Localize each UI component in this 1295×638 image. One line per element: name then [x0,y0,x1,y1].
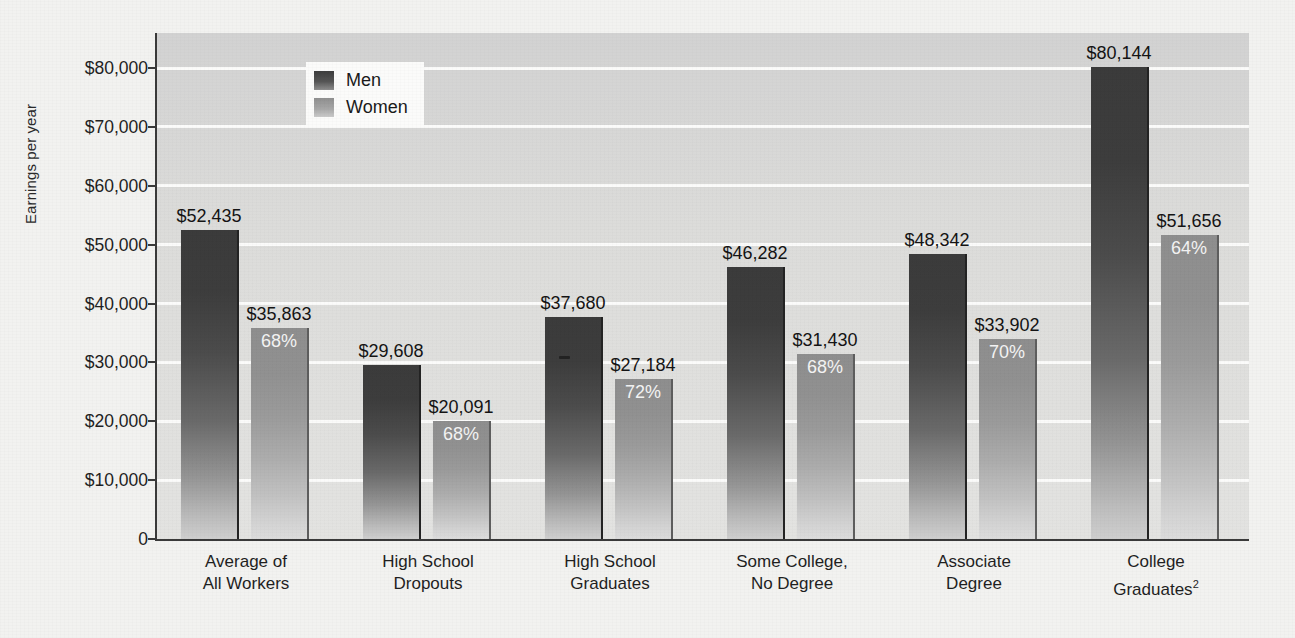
bar-value-label: $33,902 [974,315,1039,336]
bar-value-label: $51,656 [1156,211,1221,232]
legend-item-women: Women [314,94,408,121]
y-axis-tickmark [148,67,157,69]
bar-percent-label: 64% [1171,238,1207,259]
bar-percent-label: 68% [807,357,843,378]
bar-men[interactable]: $80,144 [1091,67,1149,539]
bar-value-label: $35,863 [246,304,311,325]
bar-women[interactable]: $33,90270% [979,339,1037,539]
bar-percent-label: 68% [443,424,479,445]
bar-value-label: $29,608 [358,341,423,362]
bar-value-label: $20,091 [428,397,493,418]
y-axis-tick-label: $10,000 [8,470,148,491]
y-axis-tick-labels: $80,000$70,000$60,000$50,000$40,000$30,0… [0,0,148,638]
y-axis-tickmark [148,185,157,187]
x-axis-label-line2: Graduates2 [1046,573,1266,601]
y-axis-tickmark [148,126,157,128]
bar-value-label: $80,144 [1086,43,1151,64]
scan-smudge-artifact [559,356,570,359]
y-axis-tick-label: 0 [8,529,148,550]
bar-men[interactable]: $46,282 [727,267,785,539]
legend-swatch-men-icon [314,71,334,90]
x-axis-label-line1: College [1046,551,1266,573]
y-axis-tick-label: $30,000 [8,352,148,373]
bar-value-label: $31,430 [792,330,857,351]
bar-men[interactable]: $52,435 [181,230,239,539]
bar-percent-label: 72% [625,382,661,403]
bar-women[interactable]: $20,09168% [433,421,491,539]
y-axis-tick-label: $70,000 [8,116,148,137]
y-axis-tickmark [148,303,157,305]
y-axis-tickmark [148,479,157,481]
y-axis-tick-label: $20,000 [8,411,148,432]
legend-label-men: Men [346,70,381,91]
y-axis-tick-label: $50,000 [8,234,148,255]
gridline [157,479,1249,482]
chart-figure: Earnings per year $80,000$70,000$60,000$… [0,0,1295,638]
x-axis-label-footnote-marker: 2 [1193,578,1199,590]
legend-item-men: Men [314,67,408,94]
y-axis-tickmark [148,361,157,363]
y-axis-tick-label: $60,000 [8,175,148,196]
y-axis-tick-label: $40,000 [8,293,148,314]
gridline [157,361,1249,364]
x-axis-label: CollegeGraduates2 [1046,551,1266,601]
bar-value-label: $46,282 [722,243,787,264]
gridline [157,420,1249,423]
bar-women[interactable]: $27,18472% [615,379,673,539]
legend-label-women: Women [346,97,408,118]
bar-women[interactable]: $31,43068% [797,354,855,539]
bar-value-label: $27,184 [610,355,675,376]
gridline [157,302,1249,305]
y-axis-tickmark [148,420,157,422]
y-axis-tickmark [148,538,157,540]
bar-men[interactable]: $29,608 [363,365,421,539]
gridline [157,184,1249,187]
bar-women[interactable]: $51,65664% [1161,235,1219,539]
bar-value-label: $52,435 [176,206,241,227]
bar-value-label: $48,342 [904,230,969,251]
gridline [157,243,1249,246]
y-axis-tickmark [148,244,157,246]
legend: Men Women [306,62,424,127]
y-axis-tick-label: $80,000 [8,58,148,79]
bar-men[interactable]: $48,342 [909,254,967,539]
bar-value-label: $37,680 [540,293,605,314]
bar-percent-label: 68% [261,331,297,352]
bar-percent-label: 70% [989,342,1025,363]
legend-swatch-women-icon [314,98,334,117]
bar-men[interactable]: $37,680 [545,317,603,539]
bar-women[interactable]: $35,86368% [251,328,309,539]
